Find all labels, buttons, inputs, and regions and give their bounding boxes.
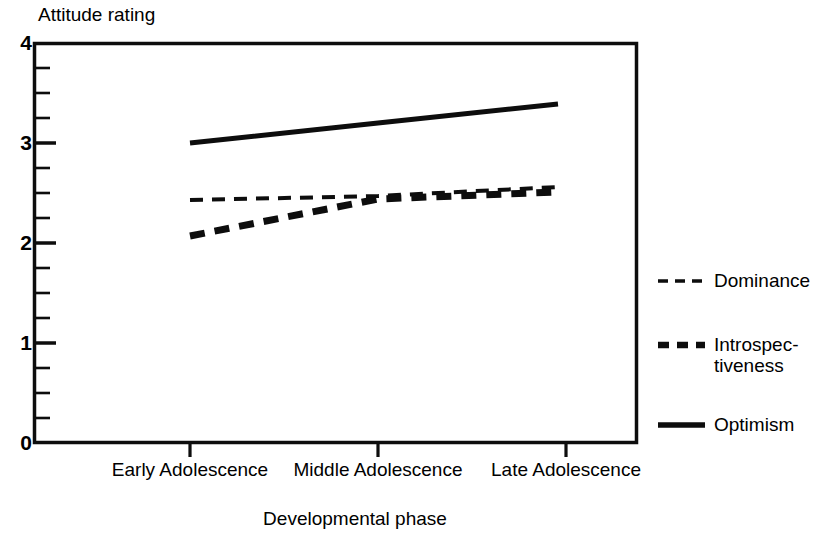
y-major-ticks (34, 143, 56, 343)
x-ticks (190, 443, 566, 457)
x-tick-label-late: Late Adolescence (491, 460, 641, 481)
legend-swatch-dashed-thick-icon (658, 334, 705, 356)
legend-label-dominance: Dominance (714, 270, 810, 292)
x-axis-title: Developmental phase (263, 508, 447, 530)
series-line-optimism (190, 104, 558, 143)
x-tick-label-middle: Middle Adolescence (294, 460, 463, 481)
legend-label-optimism: Optimism (714, 414, 794, 436)
legend-item-introspectiveness: Introspec- tiveness (658, 334, 798, 376)
x-tick-label-early: Early Adolescence (112, 460, 268, 481)
legend-swatch-solid-icon (658, 414, 705, 436)
legend-item-dominance: Dominance (658, 270, 810, 292)
legend-item-optimism: Optimism (658, 414, 794, 436)
chart-figure: Attitude rating 4 3 2 1 0 (0, 0, 837, 555)
legend-swatch-dashed-thin-icon (658, 270, 705, 292)
legend-label-introspectiveness: Introspec- tiveness (714, 334, 798, 376)
